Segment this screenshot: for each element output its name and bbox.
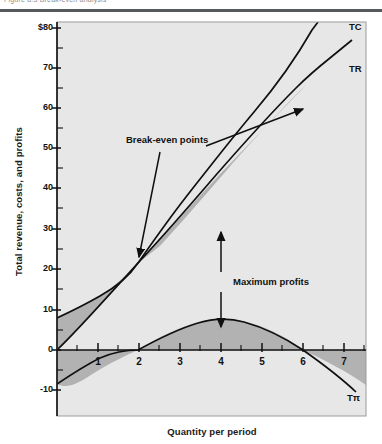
tpi-curve-label: Tπ bbox=[347, 392, 360, 403]
x-tick-label-5: 5 bbox=[252, 356, 272, 367]
x-tick-label-4: 4 bbox=[211, 356, 231, 367]
maximum-profits-annotation: Maximum profits bbox=[233, 276, 309, 287]
chart-plot-area bbox=[0, 0, 382, 444]
y-tick-label-70: 70 bbox=[7, 62, 53, 72]
x-tick-label-6: 6 bbox=[293, 356, 313, 367]
x-tick-label-7: 7 bbox=[334, 356, 354, 367]
x-tick-label-2: 2 bbox=[129, 356, 149, 367]
y-tick-label-group: $80 70 60 50 40 30 20 10 0 -10 bbox=[0, 0, 53, 444]
break-even-figure: Figure 8.3 Break-even analysis Total rev… bbox=[0, 0, 382, 444]
tr-curve-label: TR bbox=[349, 63, 362, 74]
y-tick-label-neg10: -10 bbox=[7, 384, 53, 394]
y-tick-label-80: $80 bbox=[7, 22, 53, 32]
y-tick-label-50: 50 bbox=[7, 142, 53, 152]
x-tick-label-3: 3 bbox=[170, 356, 190, 367]
y-tick-label-0: 0 bbox=[7, 344, 53, 354]
break-even-points-annotation: Break-even points bbox=[126, 134, 208, 145]
y-tick-label-20: 20 bbox=[7, 263, 53, 273]
y-tick-label-10: 10 bbox=[7, 304, 53, 314]
y-tick-label-40: 40 bbox=[7, 182, 53, 192]
x-tick-label-1: 1 bbox=[88, 356, 108, 367]
y-tick-label-30: 30 bbox=[7, 223, 53, 233]
y-tick-label-60: 60 bbox=[7, 102, 53, 112]
tc-curve-label: TC bbox=[349, 21, 362, 32]
